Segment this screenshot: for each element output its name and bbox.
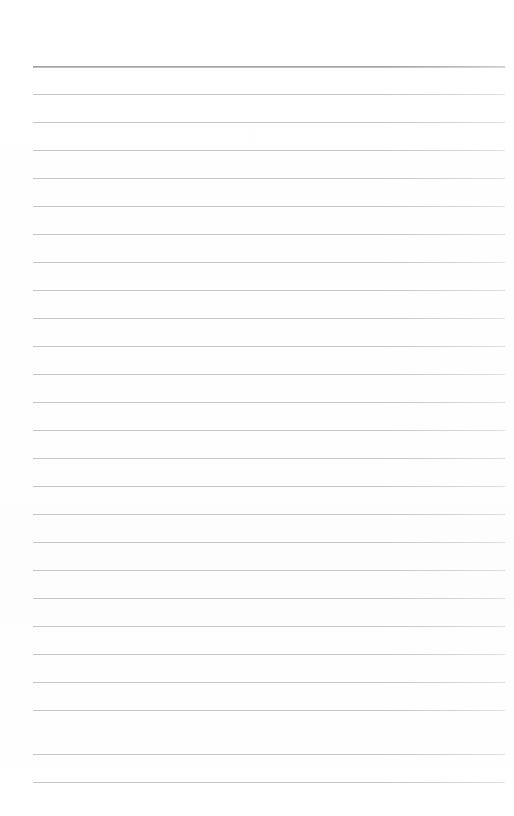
- writing-surface[interactable]: [33, 66, 505, 790]
- lined-page: [0, 0, 514, 816]
